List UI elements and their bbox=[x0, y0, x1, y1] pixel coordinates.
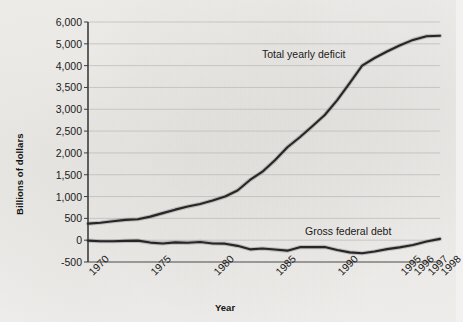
series-halo-0 bbox=[88, 36, 440, 224]
series-annotation-gross-federal-debt: Gross federal debt bbox=[305, 225, 391, 237]
series-annotation-total-yearly-deficit: Total yearly deficit bbox=[262, 48, 345, 60]
series-line-total-yearly-deficit bbox=[88, 36, 440, 224]
x-axis-title: Year bbox=[215, 302, 235, 313]
